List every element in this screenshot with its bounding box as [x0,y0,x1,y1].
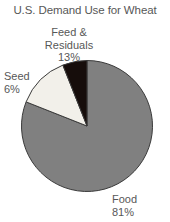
pie-label-feed-residuals: Feed & Residuals 13% [21,26,117,64]
pie-label-feed-residuals-line1: Feed & [21,26,117,39]
pie-label-feed-residuals-value: 13% [21,51,117,64]
pie-label-food-name: Food [112,193,168,206]
chart-title: U.S. Demand Use for Wheat [0,4,170,16]
pie-label-seed: Seed 6% [4,70,56,95]
pie-label-feed-residuals-line2: Residuals [21,39,117,52]
pie-label-seed-name: Seed [4,70,56,83]
pie-label-seed-value: 6% [4,83,56,96]
pie-chart-figure: U.S. Demand Use for Wheat Feed & Residua… [0,0,170,222]
pie-label-food: Food 81% [112,193,168,218]
pie-label-food-value: 81% [112,206,168,219]
